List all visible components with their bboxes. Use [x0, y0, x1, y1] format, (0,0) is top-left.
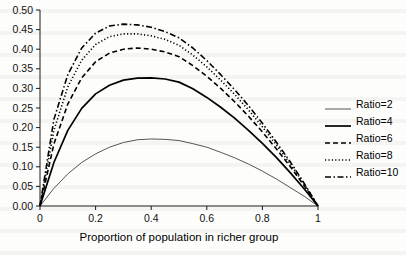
legend-item[interactable]: Ratio=10: [325, 164, 405, 181]
y-tick-label: 0.10: [0, 161, 33, 172]
legend-label: Ratio=6: [356, 133, 392, 144]
curve-ratio-6: [40, 48, 318, 206]
x-tick-label: 1: [298, 213, 338, 224]
legend-line-icon: [325, 151, 351, 161]
y-tick-label: 0.45: [0, 24, 33, 35]
legend-item[interactable]: Ratio=4: [325, 113, 405, 130]
y-tick-label: 0.05: [0, 181, 33, 192]
axis-group: [36, 10, 318, 210]
x-tick-label: 0.6: [187, 213, 227, 224]
y-tick-label: 0.15: [0, 142, 33, 153]
legend-item[interactable]: Ratio=6: [325, 130, 405, 147]
legend-item[interactable]: Ratio=8: [325, 147, 405, 164]
x-tick-label: 0.2: [76, 213, 116, 224]
legend-line-icon: [325, 134, 351, 144]
x-tick-label: 0.4: [131, 213, 171, 224]
y-tick-label: 0.30: [0, 83, 33, 94]
legend-line-icon: [325, 117, 351, 127]
legend-line-icon: [325, 168, 351, 178]
x-tick-label: 0: [20, 213, 60, 224]
legend-line-icon: [325, 100, 351, 110]
legend-label: Ratio=10: [356, 167, 398, 178]
curve-ratio-8: [40, 34, 318, 206]
legend-label: Ratio=4: [356, 116, 392, 127]
legend-item[interactable]: Ratio=2: [325, 96, 405, 113]
legend-label: Ratio=2: [356, 99, 392, 110]
y-tick-label: 0.35: [0, 63, 33, 74]
y-tick-label: 0.25: [0, 103, 33, 114]
y-tick-label: 0.00: [0, 201, 33, 212]
x-tick-label: 0.8: [242, 213, 282, 224]
x-axis-title: Proportion of population in richer group: [40, 231, 318, 243]
curve-group: [40, 24, 318, 206]
y-tick-label: 0.40: [0, 44, 33, 55]
y-tick-label: 0.50: [0, 5, 33, 16]
chart-legend: Ratio=2Ratio=4Ratio=6Ratio=8Ratio=10: [325, 96, 405, 181]
legend-label: Ratio=8: [356, 150, 392, 161]
y-tick-label: 0.20: [0, 122, 33, 133]
chart-figure: 0.000.050.100.150.200.250.300.350.400.45…: [0, 0, 406, 256]
